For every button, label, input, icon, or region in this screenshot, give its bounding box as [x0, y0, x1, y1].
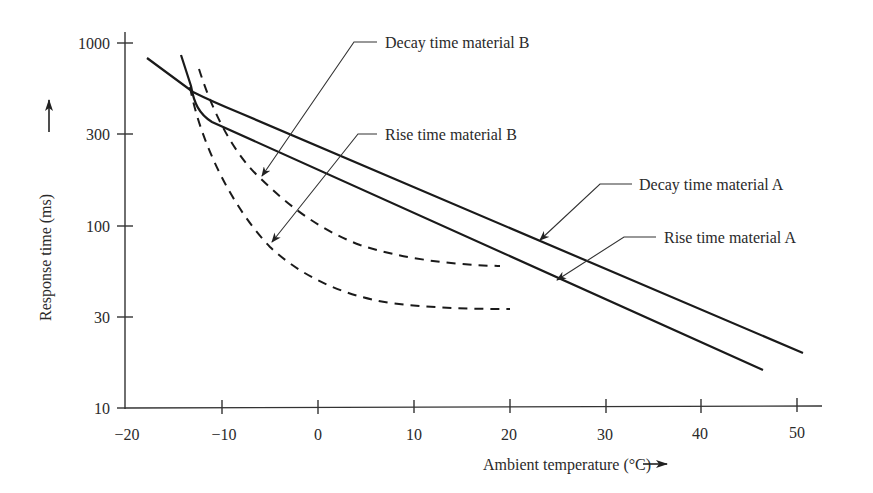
x-tick-label: 10 — [406, 426, 422, 443]
y-tick-label: 30 — [94, 309, 110, 326]
annotation-label: Rise time material B — [385, 126, 517, 143]
x-tick-label: 20 — [501, 426, 517, 443]
x-tick-label: −20 — [114, 426, 139, 443]
x-tick-label: 0 — [314, 426, 322, 443]
annotation-label: Rise time material A — [664, 229, 796, 246]
y-axis-title: Response time (ms) — [37, 194, 55, 321]
annotation-decay-material-b: Decay time material B — [262, 34, 529, 176]
y-tick-label: 1000 — [78, 35, 110, 52]
x-tick-label: 40 — [692, 425, 708, 442]
x-axis-title: Ambient temperature (°C) — [483, 456, 651, 474]
x-tick-label: −10 — [211, 426, 236, 443]
y-tick-label: 300 — [86, 126, 110, 143]
annotation-rise-material-a: Rise time material A — [557, 229, 796, 280]
annotation-label: Decay time material A — [639, 176, 784, 194]
y-axis: 1000 300 100 30 10 — [78, 32, 133, 417]
x-tick-label: 30 — [597, 426, 613, 443]
y-tick-label: 10 — [94, 400, 110, 417]
series-decay-material-b — [199, 69, 500, 266]
x-axis: −20 −10 0 10 20 30 40 50 — [114, 398, 822, 443]
x-tick-label: 50 — [789, 424, 805, 441]
chart-canvas: 1000 300 100 30 10 −20 −10 0 10 20 30 40… — [0, 0, 873, 493]
y-tick-label: 100 — [86, 218, 110, 235]
series-rise-material-b — [190, 87, 510, 309]
annotation-label: Decay time material B — [385, 34, 529, 52]
